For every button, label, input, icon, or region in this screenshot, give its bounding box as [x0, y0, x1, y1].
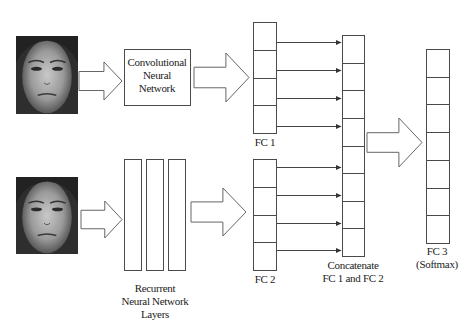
block-arrow-face-to-rnn	[81, 201, 122, 238]
fc1-layer	[254, 23, 277, 134]
face-image	[16, 177, 78, 254]
cnn-label: Convolutional Neural Network	[124, 56, 190, 95]
fc3-outline	[427, 50, 450, 244]
face-left-eye	[31, 67, 42, 71]
block-arrow-face-to-cnn	[79, 62, 122, 100]
rnn-layer-bar-1	[125, 160, 142, 271]
face-skin	[22, 40, 72, 113]
cnn-label-line-1: Convolutional	[124, 56, 190, 69]
fc3-label-line-1: FC 3	[412, 245, 462, 258]
architecture-diagram: Convolutional Neural Network FC 1 FC 2 R…	[0, 0, 475, 336]
fc2-label: FC 2	[248, 273, 282, 286]
rnn-label-line-2: Neural Network	[114, 295, 196, 308]
block-arrow-rnn-to-fc2	[191, 188, 246, 236]
concat-label-line-2: FC 1 and FC 2	[313, 272, 393, 285]
fc-to-concat-connectors	[276, 43, 341, 251]
fc3-label: FC 3 (Softmax)	[412, 245, 462, 271]
cnn-label-line-2: Neural	[124, 69, 190, 82]
input-faces	[16, 36, 78, 254]
rnn-label: Recurrent Neural Network Layers	[114, 282, 196, 321]
face-left-eye	[31, 207, 42, 211]
block-arrow-concat-to-fc3	[367, 118, 422, 167]
fc3-softmax-layer	[427, 50, 450, 244]
fc3-label-line-2: (Softmax)	[412, 258, 462, 271]
cnn-label-line-3: Network	[124, 82, 190, 95]
face-right-eye	[52, 207, 63, 211]
rnn-label-line-3: Layers	[114, 308, 196, 321]
diagram-canvas	[0, 0, 475, 336]
rnn-label-line-1: Recurrent	[114, 282, 196, 295]
concat-layer	[343, 36, 365, 257]
fc1-label: FC 1	[248, 136, 282, 149]
rnn-layers	[125, 160, 186, 271]
concat-label: Concatenate FC 1 and FC 2	[313, 259, 393, 285]
block-arrow-cnn-to-fc1	[194, 53, 249, 102]
face-right-eye	[52, 67, 63, 71]
rnn-layer-bar-2	[147, 160, 164, 271]
face-skin	[22, 181, 72, 253]
concat-label-line-1: Concatenate	[313, 259, 393, 272]
face-image	[16, 36, 78, 114]
fc2-layer	[254, 160, 277, 271]
rnn-layer-bar-3	[169, 160, 186, 271]
